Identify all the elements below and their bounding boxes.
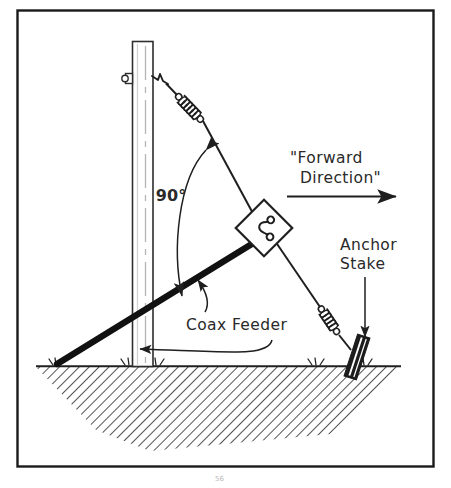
lower-tension-spring-icon [316,304,342,337]
coax-feeder-callout: Coax Feeder [140,280,287,352]
mast-bolt-icon [122,74,133,84]
angle-label: 90° [156,186,186,205]
anchor-stake-line2: Stake [340,255,385,273]
ground-hatching [36,367,400,451]
anchor-stake-callout: Anchor Stake [340,236,397,337]
mast-guy-wire-diagram: 90° "Forward Direction" Anchor Stake Coa… [0,0,451,488]
diagram-canvas: 90° "Forward Direction" Anchor Stake Coa… [0,0,451,488]
forward-direction-line2: Direction" [300,169,381,187]
coax-feeder-leader-upper [198,280,207,312]
forward-direction-line1: "Forward [290,149,363,167]
forward-direction-callout: "Forward Direction" [287,149,396,197]
guy-hook-icon [152,74,168,84]
coax-feeder-leader-lower [140,340,272,352]
coax-feeder-line [57,234,268,364]
guy-wire-upper-segment [166,84,177,96]
guy-wire-anchor-segment [339,335,351,350]
coax-feeder-label: Coax Feeder [186,316,287,334]
guy-wire-lower-segment [273,238,320,307]
anchor-stake-line1: Anchor [340,236,397,254]
grass-tufts [49,358,372,365]
grass-tuft [308,358,324,365]
page-artifact-mark: 56 [215,475,224,483]
upper-tension-spring-icon [173,91,206,125]
guy-wire-middle-segment [203,121,256,219]
